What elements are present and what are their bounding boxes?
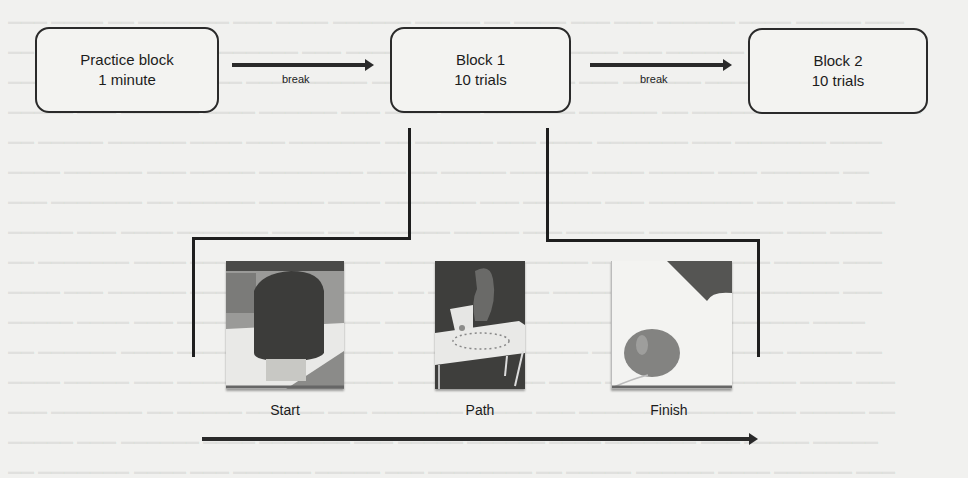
start-stage-label: Start (225, 402, 345, 418)
block-1-title: Block 1 (456, 50, 505, 70)
block-1-trials: 10 trials (454, 70, 507, 90)
path-stage-image (435, 261, 525, 389)
finish-stage-label: Finish (609, 402, 729, 418)
block-2-trials: 10 trials (812, 71, 865, 91)
robot-arm-closeup-icon (226, 261, 344, 389)
practice-block-duration: 1 minute (98, 70, 156, 90)
practice-block-box: Practice block 1 minute (35, 27, 219, 113)
break-label-1: break (282, 73, 310, 85)
trial-timeline-arrow (202, 437, 752, 441)
bracket-left-vertical-bottom (192, 237, 195, 357)
practice-block-title: Practice block (80, 50, 173, 70)
bracket-right-vertical-top (546, 128, 549, 241)
break-arrow-2 (590, 63, 726, 67)
start-stage-image (226, 261, 344, 389)
block-1-box: Block 1 10 trials (390, 27, 571, 113)
bracket-right-vertical-bottom (757, 239, 760, 357)
break-label-2: break (640, 73, 668, 85)
path-stage-label: Path (420, 402, 540, 418)
finish-stage-image (611, 261, 732, 389)
break-arrow-1 (232, 63, 368, 67)
block-2-box: Block 2 10 trials (748, 28, 928, 114)
bracket-right-horizontal (546, 239, 760, 242)
robot-table-path-icon (435, 261, 525, 389)
block-2-title: Block 2 (813, 51, 862, 71)
bracket-left-horizontal (192, 237, 411, 240)
balloon-icon (612, 261, 732, 389)
bracket-left-vertical-top (408, 128, 411, 239)
